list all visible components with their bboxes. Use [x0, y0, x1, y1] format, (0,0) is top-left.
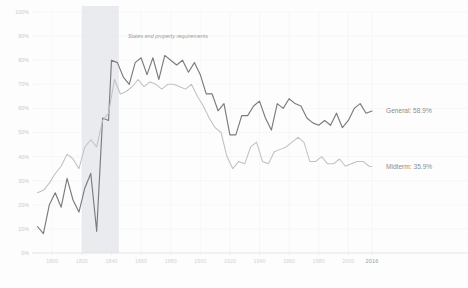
y-tick-label: 50% [18, 129, 29, 135]
annotations-group: States end property requirements [128, 33, 208, 39]
x-tick-label: 1860 [135, 258, 147, 264]
series-labels-group: General: 58.9%Midterm: 35.9% [386, 107, 432, 169]
y-tick-label: 20% [18, 202, 29, 208]
x-tick-labels-group: 1800182018401860188019001920194019601980… [46, 258, 378, 264]
series-label-general: General: 58.9% [386, 107, 432, 114]
x-tick-label: 1900 [194, 258, 206, 264]
y-tick-label: 60% [18, 105, 29, 111]
chart-plot-area: 0%10%20%30%40%50%60%70%80%90%100% 180018… [0, 0, 468, 288]
x-tick-label: 1940 [254, 258, 266, 264]
band-annotation-label: States end property requirements [128, 33, 208, 39]
y-tick-labels-group: 0%10%20%30%40%50%60%70%80%90%100% [15, 9, 29, 256]
y-tick-label: 100% [15, 9, 29, 15]
series-label-midterm: Midterm: 35.9% [386, 163, 432, 170]
x-tick-label: 1820 [76, 258, 88, 264]
y-tick-label: 90% [18, 33, 29, 39]
x-tick-label: 1840 [106, 258, 118, 264]
y-tick-label: 0% [21, 250, 29, 256]
x-tick-label: 1880 [165, 258, 177, 264]
x-tick-label: 2000 [342, 258, 354, 264]
y-tick-label: 30% [18, 178, 29, 184]
y-tick-label: 70% [18, 81, 29, 87]
x-tick-label: 1800 [46, 258, 58, 264]
voter-turnout-chart: 0%10%20%30%40%50%60%70%80%90%100% 180018… [0, 0, 468, 288]
y-tick-label: 80% [18, 57, 29, 63]
x-tick-label: 2016 [366, 258, 379, 264]
y-tick-label: 10% [18, 226, 29, 232]
x-tick-label: 1960 [283, 258, 295, 264]
x-tick-label: 1920 [224, 258, 236, 264]
x-tick-label: 1980 [313, 258, 325, 264]
y-tick-label: 40% [18, 154, 29, 160]
